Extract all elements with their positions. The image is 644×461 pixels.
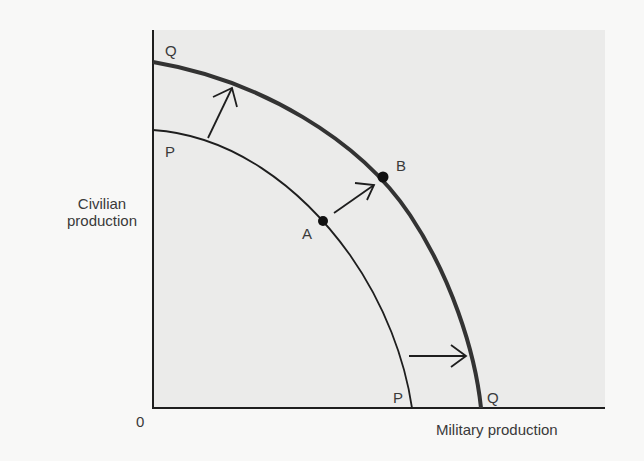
label-q-top: Q (165, 43, 177, 58)
label-p-bottom: P (393, 390, 403, 405)
arrow-a-to-b-icon (334, 183, 374, 213)
origin-label: 0 (136, 414, 144, 429)
y-axis-title-line2: production (56, 212, 148, 229)
label-point-b: B (396, 158, 406, 173)
label-point-a: A (302, 226, 312, 241)
point-a (318, 216, 328, 226)
label-p-top: P (165, 144, 175, 159)
y-axis-title-line1: Civilian (56, 195, 148, 212)
point-b (378, 172, 389, 183)
x-axis-title: Military production (436, 421, 558, 438)
ppf-diagram (0, 0, 644, 461)
label-q-bottom: Q (487, 390, 499, 405)
y-axis-title: Civilian production (56, 195, 148, 229)
arrow-lower-icon (409, 345, 466, 367)
arrow-upper-icon (208, 88, 237, 138)
